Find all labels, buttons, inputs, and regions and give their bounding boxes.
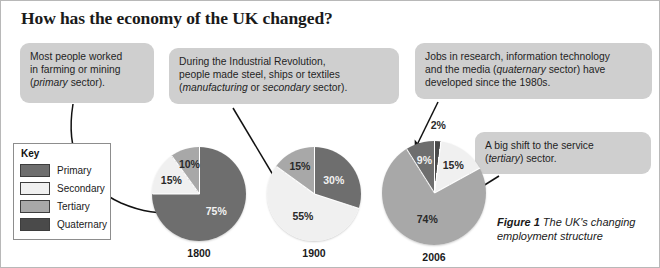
- figure-caption: Figure 1 The UK's changing employment st…: [497, 215, 657, 243]
- callout-tertiary-line1: A big shift to the service: [485, 139, 642, 152]
- pie-1800: 75%15%10%: [152, 147, 246, 241]
- pie-slice-label-tertiary: 10%: [179, 158, 200, 170]
- pie-chart-2006: 2%15%74%9%2006: [382, 141, 486, 245]
- key-item-tertiary: Tertiary: [20, 197, 105, 215]
- callout-primary-sector: Most people worked in farming or mining …: [20, 43, 154, 103]
- key-label-secondary: Secondary: [57, 183, 105, 194]
- figure-number: Figure 1: [497, 216, 540, 228]
- pie-year-label-1800: 1800: [152, 247, 246, 259]
- pie-1900: 30%55%15%: [267, 147, 361, 241]
- callout-secondary-line3: (manufacturing or secondary sector).: [179, 81, 390, 94]
- key-item-quaternary: Quaternary: [20, 215, 105, 233]
- callout-quaternary-line2: and the media (quaternary sector) have: [425, 63, 643, 76]
- key-swatch-secondary: [20, 182, 50, 195]
- key-item-secondary: Secondary: [20, 179, 105, 197]
- key-label-tertiary: Tertiary: [57, 201, 90, 212]
- callout-primary-line1: Most people worked: [30, 50, 145, 63]
- pie-slice-divider: [434, 141, 442, 193]
- pie-slice-divider: [314, 147, 315, 194]
- key-item-primary: Primary: [20, 161, 105, 179]
- callout-quaternary-sector: Jobs in research, information technology…: [415, 43, 652, 99]
- pie-slice-label-secondary: 55%: [292, 210, 313, 222]
- pie-2006: 2%15%74%9%: [382, 141, 486, 245]
- pie-chart-1900: 30%55%15%1900: [267, 147, 361, 241]
- pie-chart-1800: 75%15%10%1800: [152, 147, 246, 241]
- pie-slice-label-secondary: 15%: [443, 159, 464, 171]
- key-swatch-primary: [20, 164, 50, 177]
- callout-secondary-line1: During the Industrial Revolution,: [179, 55, 390, 68]
- callout-quaternary-line1: Jobs in research, information technology: [425, 50, 643, 63]
- pie-slice-label-quaternary: 2%: [431, 119, 446, 131]
- callout-quaternary-line3: developed since the 1980s.: [425, 76, 643, 89]
- key-legend: Key PrimarySecondaryTertiaryQuaternary: [13, 143, 111, 240]
- key-swatch-tertiary: [20, 200, 50, 213]
- callout-tertiary-sector: A big shift to the service (tertiary) se…: [475, 132, 651, 174]
- pie-slice-label-primary: 9%: [417, 154, 432, 166]
- pie-slice-divider: [314, 194, 359, 209]
- pie-slice-label-tertiary: 15%: [289, 160, 310, 172]
- pie-slice-label-primary: 75%: [206, 205, 227, 217]
- key-swatch-quaternary: [20, 218, 50, 231]
- pie-slice-label-tertiary: 74%: [417, 213, 438, 225]
- callout-primary-line2: in farming or mining: [30, 63, 145, 76]
- pie-slice-label-secondary: 15%: [161, 174, 182, 186]
- key-label-primary: Primary: [57, 165, 91, 176]
- pie-slice-label-primary: 30%: [323, 174, 344, 186]
- callout-secondary-line2: people made steel, ships or textiles: [179, 68, 390, 81]
- key-title: Key: [21, 148, 105, 159]
- pie-year-label-2006: 2006: [382, 251, 486, 263]
- pie-slice-divider: [152, 194, 199, 195]
- figure-container: How has the economy of the UK changed? M…: [0, 0, 660, 268]
- pie-slice-divider: [199, 147, 200, 194]
- callout-primary-line3: (primary sector).: [30, 76, 145, 89]
- key-rows: PrimarySecondaryTertiaryQuaternary: [20, 161, 105, 233]
- callout-secondary-sector: During the Industrial Revolution, people…: [169, 48, 399, 104]
- pie-year-label-1900: 1900: [267, 247, 361, 259]
- key-label-quaternary: Quaternary: [57, 219, 107, 230]
- pie-slice-divider: [434, 168, 480, 194]
- callout-tertiary-line2: (tertiary) sector.: [485, 152, 642, 165]
